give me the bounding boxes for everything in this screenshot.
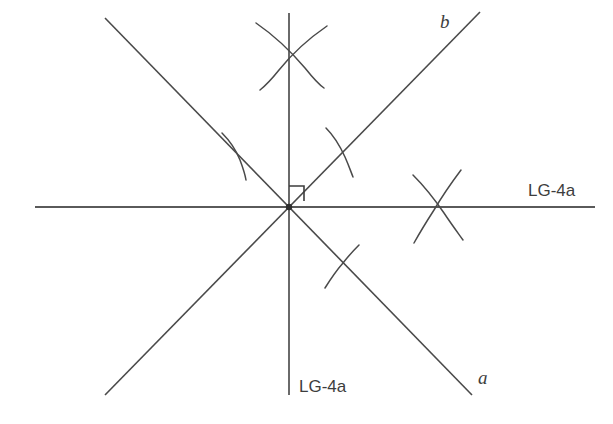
line-b-label: b [440,11,450,32]
arc-top-left [256,23,324,88]
horizontal-line-label: LG-4a [528,181,576,200]
vertex-point [286,204,292,210]
vertical-line-label: LG-4a [299,377,347,396]
geometry-figure: LG-4a LG-4a a b [0,0,613,424]
arc-lower-right [325,245,359,288]
line-b [105,12,480,395]
arc-top-right [260,26,327,90]
line-a-label: a [478,367,488,388]
arc-upper-right [326,128,353,177]
diagram-canvas: LG-4a LG-4a a b [0,0,613,424]
arc-upper-left [222,133,246,180]
